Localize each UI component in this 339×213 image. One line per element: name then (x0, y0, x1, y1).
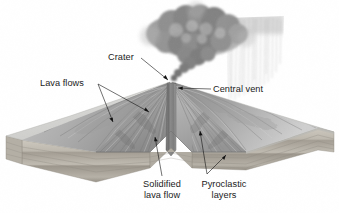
label-crater: Crater (108, 52, 134, 62)
label-lava-flows: Lava flows (40, 78, 84, 88)
label-pyroclastic-layers-line1: Pyroclastic (202, 179, 247, 189)
label-central-vent: Central vent (213, 84, 264, 94)
volcano-diagram-figure: Crater Lava flows Central vent Solidifie… (0, 0, 339, 213)
label-solidified-lava-flow-line2: lava flow (144, 190, 181, 200)
diagram-canvas: Crater Lava flows Central vent Solidifie… (0, 0, 339, 213)
label-pyroclastic-layers-line2: layers (212, 190, 237, 200)
label-solidified-lava-flow-line1: Solidified (143, 179, 181, 189)
